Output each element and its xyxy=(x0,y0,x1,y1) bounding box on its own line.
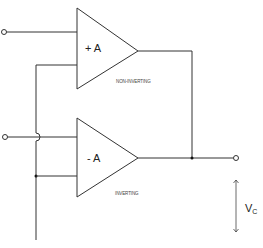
top-input-terminal xyxy=(2,30,7,35)
common-vertical-wire xyxy=(36,65,40,240)
bottom-amp-gain-label: - A xyxy=(87,152,101,164)
double-arrow-icon xyxy=(234,180,239,232)
circuit-diagram: + A NON-INVERTING - A INVERTING VC xyxy=(0,0,263,248)
bottom-input-terminal xyxy=(3,135,8,140)
top-amp-output-wire xyxy=(138,51,192,158)
output-terminal xyxy=(234,156,239,161)
top-amp-gain-label: + A xyxy=(85,42,102,54)
non-inverting-caption: NON-INVERTING xyxy=(116,79,151,84)
output-voltage-label: VC xyxy=(245,202,257,215)
inverting-caption: INVERTING xyxy=(115,191,139,196)
junction-dot-output xyxy=(191,157,194,160)
